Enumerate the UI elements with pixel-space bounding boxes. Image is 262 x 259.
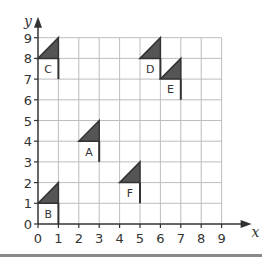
y-tick-label: 3	[24, 155, 32, 170]
x-tick-label: 8	[197, 231, 205, 246]
x-tick-label: 1	[54, 231, 62, 246]
flag-label: B	[44, 208, 52, 221]
flag-a: A	[79, 121, 99, 162]
y-tick-label: 0	[24, 217, 32, 232]
flag-triangle	[160, 58, 180, 79]
flag-c: C	[38, 38, 58, 79]
x-tick-label: 3	[95, 231, 103, 246]
x-axis-arrow-icon	[241, 220, 252, 228]
flag-label: F	[127, 187, 133, 200]
y-tick-label: 8	[24, 51, 32, 66]
flag-d: D	[140, 38, 160, 79]
x-tick-label: 4	[115, 231, 123, 246]
flag-triangle	[38, 38, 58, 59]
y-axis-arrow-icon	[34, 17, 42, 28]
flag-label: E	[167, 83, 174, 96]
y-tick-label: 1	[24, 196, 32, 211]
flag-triangle	[120, 162, 140, 183]
x-tick-label: 5	[136, 231, 144, 246]
x-tick-label: 7	[177, 231, 185, 246]
flag-triangle	[79, 121, 99, 142]
y-tick-label: 5	[24, 114, 32, 129]
y-axis-label: y	[23, 13, 33, 29]
flag-e: E	[160, 58, 180, 99]
x-tick-label: 2	[75, 231, 83, 246]
x-tick-label: 0	[34, 231, 42, 246]
y-tick-label: 9	[24, 31, 32, 46]
flag-f: F	[120, 162, 140, 203]
y-tick-label: 4	[24, 134, 32, 149]
x-axis-label: x	[252, 224, 260, 240]
x-tick-label: 6	[156, 231, 164, 246]
flag-label: C	[44, 63, 52, 76]
flag-triangle	[38, 183, 58, 204]
flag-label: A	[85, 146, 93, 159]
y-tick-label: 7	[24, 72, 32, 87]
axes	[34, 17, 252, 228]
bottom-rule	[0, 254, 262, 257]
flag-triangle	[140, 38, 160, 59]
flags: ABCDEF	[38, 38, 181, 224]
flag-b: B	[38, 183, 58, 224]
x-tick-label: 9	[217, 231, 225, 246]
coordinate-grid-diagram: ABCDEF 01234567890123456789xy	[0, 0, 262, 259]
y-tick-label: 2	[24, 176, 32, 191]
y-tick-label: 6	[24, 93, 32, 108]
flag-label: D	[146, 63, 154, 76]
